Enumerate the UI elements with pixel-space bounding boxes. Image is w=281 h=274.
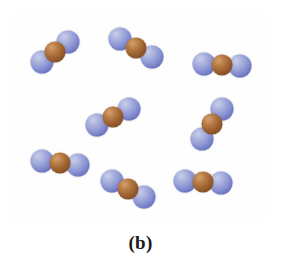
molecule-layer [11, 12, 268, 222]
nitrogen-atom [202, 114, 223, 135]
nitrogen-atom [45, 42, 66, 63]
figure-root: (b) [0, 0, 281, 274]
nitrogen-atom [212, 55, 233, 76]
figure-caption: (b) [0, 232, 281, 254]
molecule-box [11, 12, 268, 222]
nitrogen-atom [50, 153, 71, 174]
nitrogen-atom [103, 107, 124, 128]
nitrogen-atom [193, 172, 214, 193]
nitrogen-atom [118, 179, 139, 200]
nitrogen-atom [126, 38, 147, 59]
